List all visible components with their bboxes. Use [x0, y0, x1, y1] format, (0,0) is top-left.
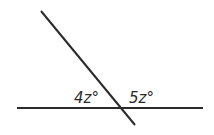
angle-label-left: 4z° [74, 89, 99, 107]
angle-label-right: 5z° [129, 89, 154, 107]
angle-diagram: 4z° 5z° [0, 0, 214, 135]
